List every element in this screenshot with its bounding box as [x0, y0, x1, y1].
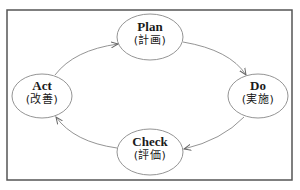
node-check-subtitle: (評価): [110, 150, 190, 163]
node-do-title: Do: [223, 79, 293, 94]
pdca-diagram: Plan (計画) Do (実施) Check (評価) Act (改善): [0, 0, 300, 190]
node-check-title: Check: [110, 135, 190, 150]
node-act: Act (改善): [7, 79, 77, 107]
node-plan-subtitle: (計画): [110, 35, 190, 48]
node-plan: Plan (計画): [110, 20, 190, 48]
node-check: Check (評価): [110, 135, 190, 163]
node-act-subtitle: (改善): [7, 94, 77, 107]
node-do: Do (実施): [223, 79, 293, 107]
node-do-subtitle: (実施): [223, 94, 293, 107]
node-act-title: Act: [7, 79, 77, 94]
node-plan-title: Plan: [110, 20, 190, 35]
